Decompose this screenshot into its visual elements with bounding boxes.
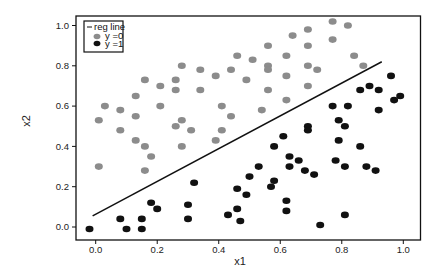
data-point — [116, 107, 124, 114]
data-point — [335, 117, 343, 124]
x-tick-label: 0.6 — [274, 244, 287, 255]
data-point — [332, 157, 340, 164]
data-point — [116, 127, 124, 134]
data-point — [270, 177, 278, 184]
data-point — [282, 52, 290, 59]
data-point — [196, 87, 204, 94]
data-point — [246, 173, 254, 180]
data-point — [356, 143, 364, 150]
data-point — [304, 127, 312, 134]
data-point — [356, 87, 364, 94]
data-point — [387, 73, 395, 80]
data-point — [95, 117, 103, 124]
data-point — [190, 179, 198, 186]
data-point — [178, 143, 186, 150]
legend-label-y1: y =1 — [105, 38, 123, 49]
y-tick-label: 0.0 — [56, 221, 69, 232]
data-point — [184, 216, 192, 223]
data-point — [264, 42, 272, 49]
data-point — [141, 167, 149, 174]
data-point — [372, 167, 380, 174]
data-point — [304, 42, 312, 49]
data-point — [304, 83, 312, 90]
x-tick-label: 0.8 — [335, 244, 348, 255]
data-point — [316, 222, 324, 229]
data-point — [227, 67, 235, 74]
data-point — [233, 185, 241, 192]
y-tick-label: 0.6 — [56, 100, 69, 111]
data-point — [101, 103, 109, 110]
x-axis-title: x1 — [234, 255, 246, 267]
x-tick-label: 0.0 — [89, 244, 102, 255]
data-point — [86, 226, 94, 233]
data-point — [236, 218, 244, 225]
x-tick-label: 0.4 — [212, 244, 225, 255]
data-point — [147, 153, 155, 160]
data-point — [132, 93, 140, 100]
data-point — [375, 107, 383, 114]
data-point — [282, 198, 290, 205]
legend-grey-dot-icon — [94, 34, 101, 40]
legend: reg line y =0 y =1 — [84, 21, 125, 52]
data-point — [264, 87, 272, 94]
data-point — [141, 143, 149, 150]
data-point — [329, 36, 337, 43]
data-point — [282, 97, 290, 104]
data-point — [218, 127, 226, 134]
data-point — [341, 163, 349, 170]
data-point — [172, 77, 180, 84]
data-point — [184, 202, 192, 209]
data-point — [289, 32, 297, 39]
data-point — [335, 137, 343, 144]
data-point — [172, 87, 180, 94]
data-point — [341, 212, 349, 219]
data-point — [138, 216, 146, 223]
data-point — [341, 123, 349, 130]
y-axis: 0.00.20.40.60.81.0 — [56, 20, 76, 233]
data-point — [227, 113, 235, 120]
data-point — [329, 18, 337, 25]
data-point — [390, 97, 398, 104]
data-point — [375, 87, 383, 94]
data-point — [242, 77, 250, 84]
data-point — [258, 107, 266, 114]
y-tick-label: 0.8 — [56, 60, 69, 71]
data-point — [196, 67, 204, 74]
data-point — [138, 226, 146, 233]
data-point — [233, 52, 241, 59]
data-point — [286, 163, 294, 170]
y-tick-label: 0.2 — [56, 181, 69, 192]
data-point — [132, 137, 140, 144]
data-point — [359, 63, 367, 70]
data-point — [267, 183, 275, 190]
data-point — [141, 77, 149, 84]
data-point — [282, 73, 290, 80]
legend-black-dot-icon — [94, 41, 101, 47]
data-point — [310, 171, 318, 178]
data-point — [264, 67, 272, 74]
x-tick-label: 1.0 — [397, 244, 410, 255]
data-point — [366, 83, 374, 90]
plot-frame — [76, 16, 421, 240]
data-point — [301, 167, 309, 174]
data-point — [286, 153, 294, 160]
data-point — [282, 208, 290, 215]
data-point — [123, 226, 131, 233]
data-point — [178, 63, 186, 70]
data-point — [187, 127, 195, 134]
data-point — [218, 103, 226, 110]
scatter-chart: 0.00.20.40.60.81.0 0.00.20.40.60.81.0 x1… — [0, 0, 438, 273]
data-point — [95, 163, 103, 170]
data-point — [313, 67, 321, 74]
data-point — [362, 163, 370, 170]
data-point — [132, 113, 140, 120]
data-point — [304, 26, 312, 33]
data-point — [350, 52, 358, 59]
data-point — [156, 83, 164, 90]
data-point — [279, 133, 287, 140]
data-point — [255, 163, 263, 170]
data-point — [224, 212, 232, 219]
data-point — [156, 103, 164, 110]
data-point — [249, 57, 257, 64]
y-axis-title: x2 — [20, 115, 32, 127]
